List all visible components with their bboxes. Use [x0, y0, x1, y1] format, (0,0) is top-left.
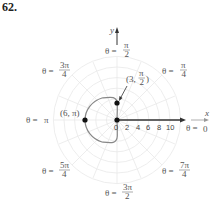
- svg-text:2: 2: [125, 49, 130, 59]
- x-axis-label: x: [204, 108, 209, 118]
- angle-label-pi4: θ = π 4: [162, 60, 187, 79]
- svg-text:2: 2: [125, 191, 130, 201]
- svg-text:(3,: (3,: [126, 74, 136, 84]
- angle-label-3pi4: θ = 3π 4: [42, 60, 70, 79]
- svg-text:4: 4: [62, 169, 67, 179]
- svg-text:6: 6: [146, 123, 150, 132]
- radial-ticks: 0 2 4 6 8 10: [114, 123, 174, 132]
- svg-text:θ =: θ =: [105, 188, 117, 198]
- svg-text:θ =: θ =: [162, 66, 174, 76]
- point-3-pi2: [114, 100, 119, 105]
- svg-text:4: 4: [182, 169, 187, 179]
- angle-label-0: θ = 0: [186, 123, 208, 134]
- svg-text:θ =: θ =: [162, 166, 174, 176]
- svg-text:2: 2: [140, 77, 145, 87]
- svg-text:4: 4: [182, 69, 187, 79]
- svg-text:θ =: θ =: [186, 123, 198, 133]
- angle-label-7pi4: θ = 7π 4: [162, 160, 190, 179]
- angle-label-5pi4: θ = 5π 4: [42, 160, 70, 179]
- point-pole: [114, 117, 119, 122]
- svg-text:4: 4: [62, 69, 67, 79]
- polar-chart: y x (6, π) (3, π 2 ) 0 2 4 6 8 10 θ = π: [0, 0, 218, 217]
- angle-label-pi: θ = π: [26, 115, 49, 125]
- svg-text:10: 10: [166, 123, 174, 132]
- point-6-pi: [82, 117, 87, 122]
- svg-text:θ =: θ =: [42, 66, 54, 76]
- svg-text:0: 0: [203, 124, 208, 134]
- svg-text:θ =: θ =: [105, 46, 117, 56]
- svg-text:θ =: θ =: [42, 166, 54, 176]
- svg-text:π: π: [44, 115, 49, 125]
- svg-text:2: 2: [125, 123, 129, 132]
- svg-text:0: 0: [114, 123, 118, 132]
- y-axis-label: y: [109, 25, 114, 35]
- point-label-6-pi: (6, π): [60, 108, 80, 118]
- svg-text:): ): [146, 74, 149, 84]
- svg-text:θ =: θ =: [26, 115, 38, 125]
- svg-text:4: 4: [136, 123, 140, 132]
- angle-label-3pi2: θ = 3π 2: [105, 182, 133, 201]
- svg-text:8: 8: [157, 123, 161, 132]
- y-axis: y: [109, 25, 119, 45]
- x-axis: x: [191, 108, 209, 122]
